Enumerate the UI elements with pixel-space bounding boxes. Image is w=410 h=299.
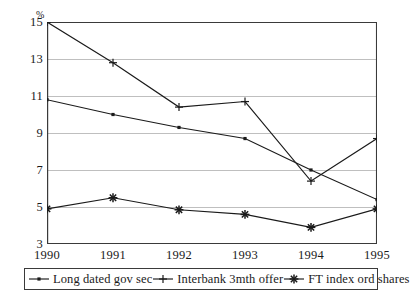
series-line xyxy=(47,100,377,200)
marker-dot xyxy=(37,277,40,280)
marker-dot xyxy=(243,137,246,140)
marker-dot xyxy=(47,98,49,101)
x-tick-label: 1993 xyxy=(215,248,275,262)
series-line xyxy=(47,198,377,228)
x-tick-label: 1990 xyxy=(17,248,77,262)
x-tick-label: 1991 xyxy=(83,248,143,262)
series-line xyxy=(47,22,377,181)
chart-legend: Long dated gov secInterbank 3mth offerFT… xyxy=(24,268,378,290)
x-axis-tick-labels: 199019911992199319941995 xyxy=(47,248,377,266)
marker-dot xyxy=(111,113,114,116)
data-series-layer xyxy=(47,22,377,232)
line-chart-svg xyxy=(47,22,377,244)
series-3 xyxy=(47,193,377,231)
legend-symbol-svg xyxy=(152,272,174,286)
x-tick-label: 1992 xyxy=(149,248,209,262)
legend-marker-dot-icon xyxy=(28,272,50,286)
y-tick-label: 11 xyxy=(3,90,43,102)
y-tick-label: 7 xyxy=(3,164,43,176)
legend-entry: Interbank 3mth offer xyxy=(152,272,283,286)
legend-symbol-svg xyxy=(28,272,50,286)
plot-area xyxy=(47,22,377,244)
series-2 xyxy=(47,22,377,185)
legend-entry: FT index ord shares xyxy=(283,272,409,286)
y-tick-label: 9 xyxy=(3,127,43,139)
y-tick-label: 5 xyxy=(3,201,43,213)
legend-label: FT index ord shares xyxy=(308,272,409,286)
y-tick-label: 15 xyxy=(3,16,43,28)
legend-marker-asterisk-icon xyxy=(283,272,305,286)
y-axis-tick-labels: 3579111315 xyxy=(0,22,43,244)
series-1 xyxy=(47,98,377,201)
x-tick-label: 1994 xyxy=(281,248,341,262)
legend-marker-plus-icon xyxy=(152,272,174,286)
x-tick-label: 1995 xyxy=(347,248,407,262)
legend-label: Long dated gov sec xyxy=(53,272,152,286)
marker-dot xyxy=(177,126,180,129)
legend-label: Interbank 3mth offer xyxy=(177,272,283,286)
legend-symbol-svg xyxy=(283,272,305,286)
legend-entry: Long dated gov sec xyxy=(28,272,152,286)
marker-dot xyxy=(375,198,377,201)
y-tick-label: 13 xyxy=(3,53,43,65)
marker-dot xyxy=(309,168,312,171)
